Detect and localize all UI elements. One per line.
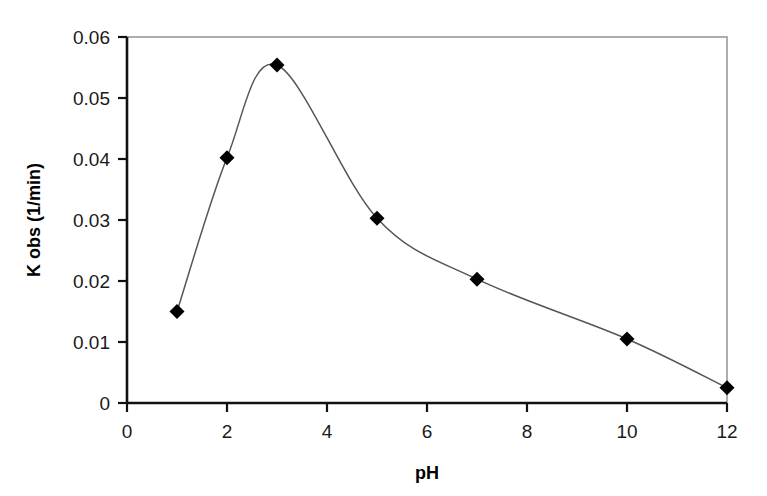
x-tick-label: 4 [322, 421, 333, 442]
y-tick-group [118, 37, 127, 403]
x-tick-group [127, 403, 727, 412]
y-axis-title: K obs (1/min) [24, 163, 44, 277]
x-tick-label: 6 [422, 421, 433, 442]
x-tick-label: 12 [716, 421, 737, 442]
y-tick-label: 0.06 [73, 27, 110, 48]
x-tick-label: 0 [122, 421, 133, 442]
chart-canvas: 0 2 4 6 8 10 12 0 0.01 0.02 0.03 0.04 0.… [0, 0, 767, 496]
y-tick-labels: 0 0.01 0.02 0.03 0.04 0.05 0.06 [73, 27, 110, 414]
x-tick-labels: 0 2 4 6 8 10 12 [122, 421, 738, 442]
y-tick-label: 0.02 [73, 271, 110, 292]
y-tick-label: 0 [99, 393, 110, 414]
y-tick-label: 0.04 [73, 149, 110, 170]
x-tick-label: 2 [222, 421, 233, 442]
y-tick-label: 0.05 [73, 88, 110, 109]
x-tick-label: 10 [616, 421, 637, 442]
chart-container: 0 2 4 6 8 10 12 0 0.01 0.02 0.03 0.04 0.… [0, 0, 767, 496]
x-tick-label: 8 [522, 421, 533, 442]
x-axis-title: pH [415, 463, 439, 483]
y-tick-label: 0.01 [73, 332, 110, 353]
plot-frame [127, 37, 727, 403]
y-tick-label: 0.03 [73, 210, 110, 231]
